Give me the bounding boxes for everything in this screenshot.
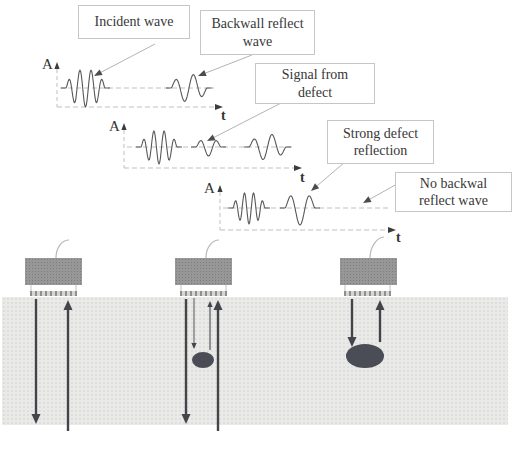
label-line: reflection [354, 142, 408, 159]
label-line: wave [243, 33, 273, 50]
time-axis-label-1: t [221, 108, 226, 124]
transducer-1 [25, 258, 82, 285]
label-line: Incident wave [95, 13, 174, 30]
couplant-strip-2 [180, 291, 227, 296]
label-line: reflect wave [419, 192, 488, 209]
label-box-no-backwall-reflect-wave: No backwal reflect wave [395, 172, 512, 212]
label-line: Signal from [282, 66, 349, 83]
time-axis-label-2: t [300, 170, 305, 186]
label-line: No backwal [420, 175, 487, 192]
transducer-3 [340, 258, 397, 285]
label-box-strong-defect-reflection: Strong defect reflection [327, 120, 434, 164]
couplant-strip-1 [30, 291, 77, 296]
label-box-backwall-reflect-wave: Backwall reflect wave [200, 10, 315, 55]
figure-ultrasonic-pulse-echo: Incident wave Backwall reflect wave Sign… [0, 0, 515, 459]
label-line: Backwall reflect [211, 15, 303, 32]
label-box-signal-from-defect: Signal from defect [255, 63, 375, 104]
amplitude-axis-label-1: A [42, 56, 53, 73]
label-box-incident-wave: Incident wave [78, 5, 190, 39]
ascan-plot-3 [217, 185, 396, 233]
specimen-block [2, 297, 508, 425]
amplitude-axis-label-3: A [204, 180, 215, 197]
amplitude-axis-label-2: A [109, 118, 120, 135]
transducer-2 [175, 258, 232, 285]
couplant-strip-3 [344, 291, 391, 296]
time-axis-label-3: t [396, 230, 401, 246]
ascan-plot-2 [121, 123, 302, 171]
ascan-plot-1 [54, 62, 223, 110]
label-line: Strong defect [343, 125, 418, 142]
label-line: defect [298, 84, 332, 101]
